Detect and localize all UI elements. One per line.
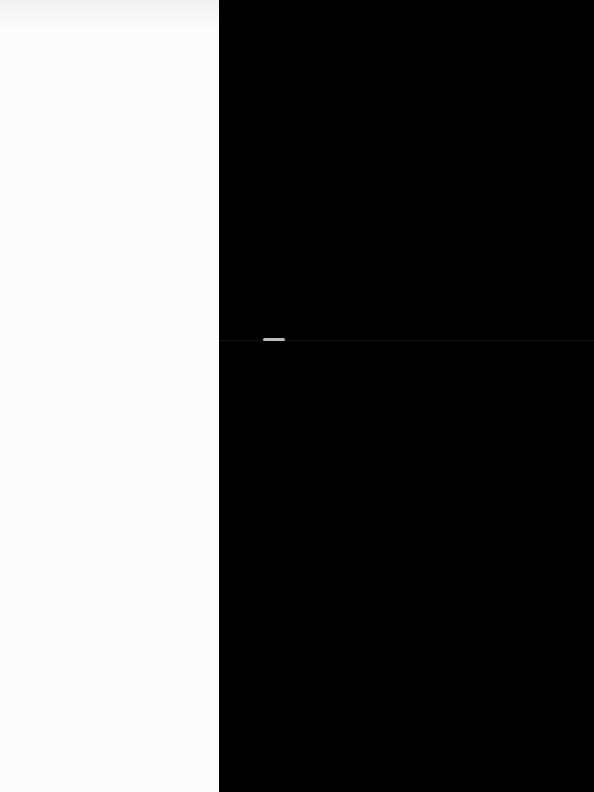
light-highlight bbox=[263, 338, 285, 341]
right-dark-panel bbox=[219, 0, 594, 792]
left-blank-panel bbox=[0, 0, 219, 792]
